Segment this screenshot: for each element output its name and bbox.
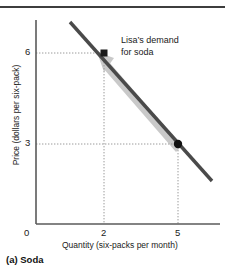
x-axis-title: Quantity (six-packs per month) — [62, 240, 178, 250]
demand-annotation-line2: for soda — [121, 46, 179, 58]
demand-annotation: Lisa’s demand for soda — [121, 34, 179, 58]
demand-chart-canvas — [0, 0, 225, 245]
y-tick-label-3: 3 — [25, 138, 30, 148]
demand-annotation-line1: Lisa’s demand — [121, 35, 179, 45]
y-axis-title: Price (dollars per six-pack) — [11, 55, 21, 175]
guide-lines — [36, 53, 178, 224]
origin-label: 0 — [24, 228, 29, 238]
x-tick-label-5: 5 — [175, 228, 180, 238]
data-point-5-3 — [174, 140, 182, 148]
figure-caption: (a) Soda — [6, 254, 43, 265]
y-tick-label-6: 6 — [25, 47, 30, 57]
figure-soda-demand: 6 3 0 2 5 Quantity (six-packs per month)… — [0, 0, 225, 271]
data-point-2-6 — [101, 50, 108, 57]
x-tick-label-2: 2 — [101, 228, 106, 238]
